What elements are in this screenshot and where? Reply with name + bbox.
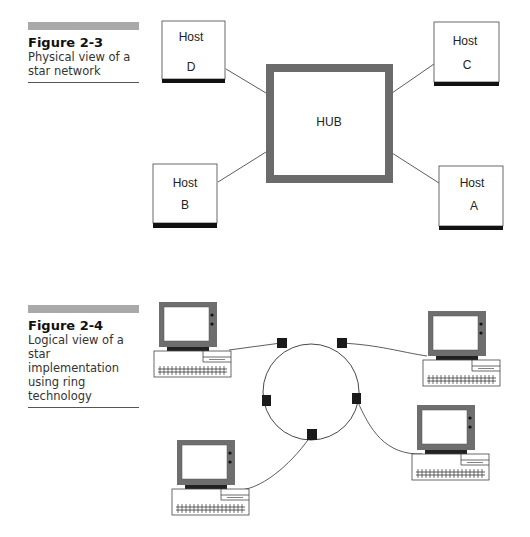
host-label: Host xyxy=(453,34,478,48)
ring-node xyxy=(262,395,271,406)
host-d: Host D xyxy=(162,21,225,83)
hub: HUB xyxy=(270,68,389,179)
host-label: Host xyxy=(460,176,485,190)
link-d-hub xyxy=(226,69,266,93)
host-a: Host A xyxy=(439,166,503,230)
link-a-hub xyxy=(392,153,439,183)
ring-node xyxy=(337,338,347,348)
hub-label: HUB xyxy=(316,115,341,129)
computer-icon xyxy=(154,302,231,377)
ring-node xyxy=(307,429,317,440)
host-id: A xyxy=(470,199,478,213)
computer-icon xyxy=(423,311,500,386)
cable xyxy=(357,400,422,454)
ring-node xyxy=(352,393,361,404)
host-id: B xyxy=(181,198,189,212)
cable xyxy=(240,434,312,490)
computer-icon xyxy=(172,440,249,515)
host-label: Host xyxy=(179,30,204,44)
computer-icon xyxy=(412,405,489,480)
host-b: Host B xyxy=(153,164,217,228)
cable xyxy=(229,343,281,350)
link-c-hub xyxy=(392,64,434,93)
ring-node xyxy=(277,338,287,348)
host-id: C xyxy=(463,58,472,72)
ring xyxy=(263,344,359,440)
network-diagrams: HUB Host D Host C Host B Host A xyxy=(0,0,530,537)
cable xyxy=(341,343,427,356)
host-id: D xyxy=(187,60,196,74)
link-b-hub xyxy=(218,152,266,182)
host-label: Host xyxy=(173,176,198,190)
ring-network xyxy=(154,302,500,515)
host-c: Host C xyxy=(434,22,499,86)
star-network: HUB Host D Host C Host B Host A xyxy=(153,21,503,230)
